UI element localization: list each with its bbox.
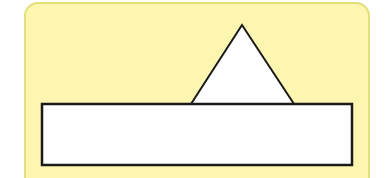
shapes-canvas: [0, 0, 387, 178]
rectangle-shape: [42, 104, 352, 165]
diagram-stage: [0, 0, 387, 178]
triangle-shape: [191, 25, 294, 104]
